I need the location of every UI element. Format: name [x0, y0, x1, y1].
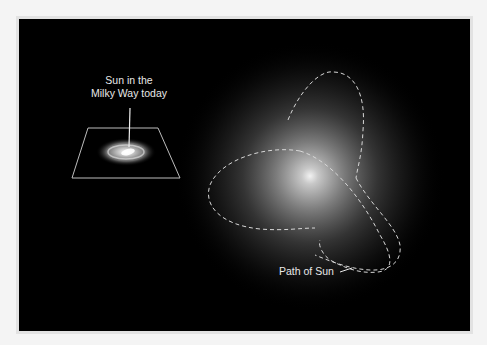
label-line-1: Sun in the — [84, 74, 174, 87]
diagram-canvas — [0, 0, 487, 345]
sun-in-milky-way-label: Sun in the Milky Way today — [84, 74, 174, 100]
label-line-2: Milky Way today — [84, 87, 174, 100]
path-of-sun-label: Path of Sun — [279, 265, 334, 278]
